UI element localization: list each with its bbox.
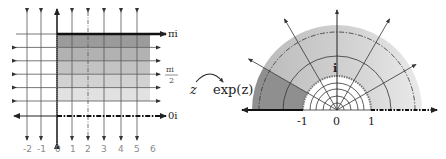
mapping-arrow: z exp(z) [189,74,253,97]
tick-label: 2 [85,144,91,154]
label-minus-1: -1 [297,115,308,128]
left-panel-strip: πi πi 2 0i -2 -1 0 1 2 3 4 5 6 [14,9,178,154]
tick-label: -1 [37,144,46,154]
right-panel-annulus: -1 0 1 i [242,10,437,128]
label-pi-i-over-2-den: 2 [169,76,174,85]
strip-shading [57,34,150,101]
tick-label: 3 [101,144,107,154]
label-exp-z: exp(z) [213,82,253,97]
tick-label: 5 [134,144,140,154]
tick-label: 1 [70,144,76,154]
label-z: z [189,82,197,97]
label-0: 0 [333,115,340,128]
label-i: i [333,62,337,75]
label-pi-i-over-2-num: πi [166,65,174,74]
tick-label: 4 [118,144,124,154]
label-0-i: 0i [168,110,178,121]
label-pi-i: πi [168,28,178,39]
tick-label: 0 [55,144,61,154]
exp-map-diagram: πi πi 2 0i -2 -1 0 1 2 3 4 5 6 z exp(z) [0,0,446,159]
x-tick-labels: -2 -1 0 1 2 3 4 5 6 [23,144,156,154]
tick-label: 6 [150,144,156,154]
tick-label: -2 [23,144,32,154]
label-1: 1 [368,115,375,128]
